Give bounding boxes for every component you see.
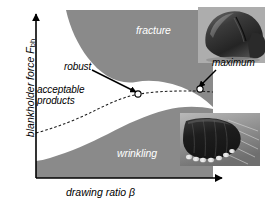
x-axis-label-text: drawing ratio <box>66 186 129 198</box>
x-axis-label: drawing ratio β <box>66 186 135 198</box>
wrinkling-part-photo <box>180 113 260 166</box>
region-label-acceptable-products: acceptable products <box>37 85 84 107</box>
y-axis-label-wrapper: blankholder force Fbh <box>20 8 36 168</box>
region-label-fracture: fracture <box>136 25 171 36</box>
process-window-figure: fracture wrinkling acceptable products r… <box>0 0 274 207</box>
annotation-label-robust: robust <box>64 62 91 73</box>
region-label-wrinkling: wrinkling <box>117 148 157 159</box>
robust-point-marker[interactable] <box>135 91 141 97</box>
maximum-point-marker[interactable] <box>197 86 203 92</box>
x-axis-label-symbol: β <box>129 186 135 198</box>
acceptable-line-2: products <box>37 96 84 107</box>
annotation-label-maximum: maximum <box>212 58 255 69</box>
fracture-part-photo <box>198 7 265 63</box>
y-axis-label-subscript: bh <box>28 39 37 47</box>
y-axis-label: blankholder force Fbh <box>24 39 36 137</box>
y-axis-label-text: blankholder force <box>24 54 36 137</box>
y-axis-label-symbol: F <box>24 47 36 53</box>
